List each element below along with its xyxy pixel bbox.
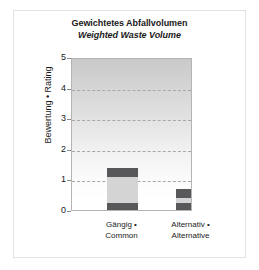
chart-figure: Gewichtetes Abfallvolumen Weighted Waste… bbox=[0, 0, 259, 270]
y-tick-label-5: 5 bbox=[50, 53, 66, 62]
bar-1-middle-segment bbox=[107, 177, 138, 203]
x-tick-label-2: Alternativ •Alternative bbox=[146, 219, 236, 241]
y-tick-label-2: 2 bbox=[50, 145, 66, 154]
bar-2-middle-segment bbox=[176, 198, 192, 203]
bar-2-bottom-segment bbox=[176, 203, 192, 211]
chart-title-block: Gewichtetes Abfallvolumen Weighted Waste… bbox=[0, 17, 259, 41]
y-tick-label-4: 4 bbox=[50, 84, 66, 93]
y-tick-label-1: 1 bbox=[50, 175, 66, 184]
bar-1-bottom-segment bbox=[107, 203, 138, 211]
chart-title-german: Gewichtetes Abfallvolumen bbox=[0, 17, 259, 29]
y-tick-mark-0 bbox=[67, 211, 71, 212]
y-tick-label-0: 0 bbox=[50, 206, 66, 215]
plot-area bbox=[71, 58, 192, 211]
bar-1-top-segment bbox=[107, 168, 138, 177]
bar-2 bbox=[176, 59, 192, 211]
bar-2-top-segment bbox=[176, 189, 192, 198]
y-tick-label-3: 3 bbox=[50, 114, 66, 123]
chart-title-english: Weighted Waste Volume bbox=[0, 29, 259, 41]
bar-1 bbox=[107, 59, 138, 211]
